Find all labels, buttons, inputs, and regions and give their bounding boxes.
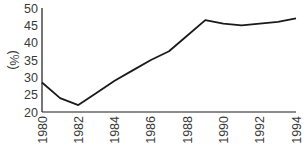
y-axis-ticks: 20253035404550 (24, 2, 38, 120)
y-tick-label: 35 (24, 54, 38, 68)
x-tick-label: 1992 (253, 116, 267, 144)
x-tick-label: 1984 (108, 116, 122, 144)
x-tick-label: 1986 (144, 116, 158, 144)
y-axis-label: (%) (7, 50, 21, 69)
y-tick-label: 50 (24, 2, 38, 16)
y-tick-label: 40 (24, 36, 38, 50)
x-tick-label: 1994 (290, 116, 304, 144)
line-chart: (%) 20253035404550 198019821984198619881… (0, 0, 303, 153)
x-tick-label: 1988 (181, 116, 195, 144)
y-tick-label: 45 (24, 19, 38, 33)
y-tick-label: 30 (24, 71, 38, 85)
y-axis-title: (%) (7, 50, 21, 69)
y-tick-label: 25 (24, 88, 38, 102)
x-tick-label: 1982 (72, 116, 86, 144)
x-axis-ticks: 19801982198419861988199019921994 (36, 116, 304, 144)
x-tick-label: 1980 (36, 116, 50, 144)
data-series-line (42, 18, 296, 105)
x-tick-label: 1990 (217, 116, 231, 144)
